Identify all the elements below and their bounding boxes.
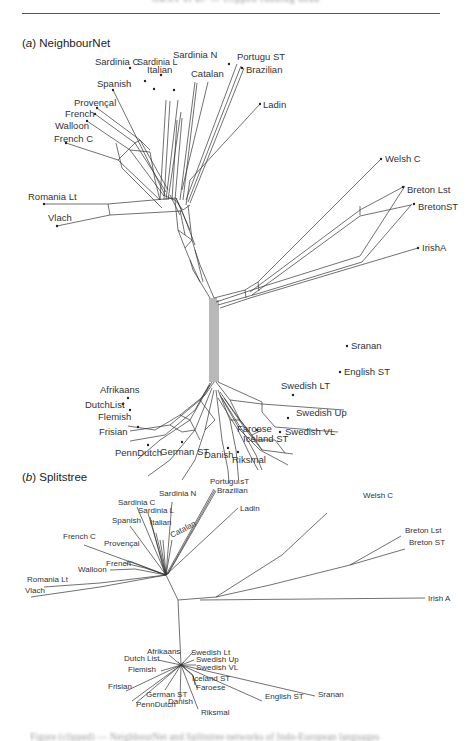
figure-caption: Figure (clipped) — NeighbourNet and Spli… [30, 731, 450, 741]
st-label-breton-lst: Breton Lst [405, 526, 442, 535]
st-label-iceland-st: Iceland ST [192, 674, 230, 683]
st-label-vlach: Vlach [25, 586, 45, 595]
nn-label-irish-a: IrishA [422, 242, 447, 253]
st-label-brazilian: Brazilian [217, 486, 248, 495]
nn-label-sardinia-c: Sardinia C [95, 56, 139, 67]
st-label-irish-a: Irish A [428, 594, 451, 603]
nn-label-italian: Italian [147, 64, 172, 75]
nn-label-frisian: Frisian [99, 426, 128, 437]
st-label-provencal: Provençal [104, 539, 140, 548]
st-label-portugu-st: Portugu sT [210, 477, 249, 486]
st-label-french-c: French C [63, 532, 96, 541]
st-label-spanish: Spanish [112, 516, 141, 525]
st-label-dutch-list: Dutch List [124, 654, 160, 663]
st-label-romania-lt: Romania Lt [27, 575, 69, 584]
st-label-faroese: Faroese [196, 683, 226, 692]
nn-label-sranan: Sranan [351, 340, 382, 351]
nn-label-penn-dutch: PennDutch [115, 447, 162, 458]
nn-label-iceland-st: Iceland ST [243, 433, 289, 444]
nn-label-dutch-list: DutchList [85, 399, 125, 410]
nn-label-afrikaans: Afrikaans [100, 384, 140, 395]
nn-label-brazilian: Brazilian [246, 64, 282, 75]
nn-label-german-st: German ST [160, 446, 209, 457]
nn-label-danish: Danish [204, 449, 234, 460]
nn-label-french-c: French C [54, 133, 93, 144]
nn-label-portugu-st: Portugu ST [237, 51, 285, 62]
nn-label-french: French [65, 108, 95, 119]
neighbournet-labels: Sardinia C Sardinia L Sardinia N Italian… [28, 49, 458, 465]
st-label-frisian: Frisian [108, 682, 132, 691]
st-label-sranan: Sranan [318, 690, 344, 699]
nn-label-vlach: Vlach [48, 212, 72, 223]
st-label-riksmal: Riksmal [201, 708, 230, 717]
splitstree-labels: Sardinia N Portugu sT Brazilian Sardinia… [25, 477, 451, 717]
st-label-english-st: English ST [265, 692, 304, 701]
nn-label-sardinia-n: Sardinia N [173, 49, 217, 60]
nn-label-catalan: Catalan [191, 68, 224, 79]
nn-label-riksmal: Riksmal [232, 454, 266, 465]
nn-label-swedish-lt: Swedish LT [281, 380, 330, 391]
st-label-swedish-vl: Swedish VL [196, 663, 239, 672]
st-label-french: French [106, 559, 131, 568]
nn-label-swedish-up: Swedish Up [296, 407, 347, 418]
nn-label-welsh-c: Welsh C [385, 153, 421, 164]
nn-label-ladin: Ladin [263, 99, 286, 110]
st-label-flemish: Flemish [128, 665, 156, 674]
st-label-ladin: Ladin [240, 504, 260, 513]
st-label-sardinia-n: Sardinia N [159, 489, 197, 498]
nn-label-spanish: Spanish [97, 78, 131, 89]
st-label-breton-st: Breton ST [409, 538, 445, 547]
nn-label-english-st: English ST [344, 366, 390, 377]
nn-label-provencal: Provençal [74, 97, 116, 108]
nn-label-romania-lt: Romania Lt [28, 191, 77, 202]
st-label-walloon: Walloon [78, 565, 107, 574]
st-label-italian: Italian [150, 518, 171, 527]
nn-label-swedish-vl: Swedish VL [285, 426, 335, 437]
nn-label-breton-st: BretonST [418, 201, 458, 212]
nn-label-flemish: Flemish [98, 411, 131, 422]
st-label-danish: Danish [168, 697, 193, 706]
nn-label-walloon: Walloon [55, 120, 89, 131]
nn-label-breton-lst: Breton Lst [407, 184, 451, 195]
st-label-sardinia-l: Sardinia L [138, 506, 175, 515]
st-label-welsh-c: Welsh C [363, 491, 393, 500]
